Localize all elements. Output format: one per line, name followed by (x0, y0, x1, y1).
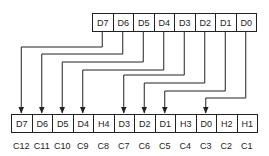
target-cell-d7: D7 (12, 115, 33, 132)
position-labels: C12C11C10C9C8C7C6C5C4C3C2C1 (11, 141, 257, 151)
target-register: D7D6D5D4H4D3D2D1H3D0H2H1 (11, 114, 258, 133)
source-cell-d4: D4 (155, 14, 176, 31)
target-cell-h3: H3 (176, 115, 197, 132)
source-cell-d3: D3 (175, 14, 196, 31)
source-cell-d6: D6 (114, 14, 135, 31)
target-cell-d5: D5 (53, 115, 74, 132)
position-label-c9: C9 (73, 141, 94, 151)
position-label-c6: C6 (134, 141, 155, 151)
position-label-c11: C11 (32, 141, 53, 151)
position-label-c1: C1 (237, 141, 258, 151)
position-label-c10: C10 (52, 141, 73, 151)
target-cell-h2: H2 (217, 115, 238, 132)
target-cell-d0: D0 (197, 115, 218, 132)
target-cell-h4: H4 (94, 115, 115, 132)
position-label-c5: C5 (155, 141, 176, 151)
source-cell-d2: D2 (196, 14, 217, 31)
target-cell-d6: D6 (33, 115, 54, 132)
wire-d2 (144, 31, 205, 113)
position-label-c4: C4 (175, 141, 196, 151)
source-cell-d7: D7 (93, 14, 114, 31)
target-cell-d2: D2 (135, 115, 156, 132)
wire-d3 (124, 31, 185, 113)
wire-d1 (165, 31, 226, 113)
source-cell-d0: D0 (237, 14, 257, 31)
target-cell-d1: D1 (156, 115, 177, 132)
position-label-c12: C12 (11, 141, 32, 151)
position-label-c8: C8 (93, 141, 114, 151)
target-cell-h1: H1 (238, 115, 258, 132)
position-label-c7: C7 (114, 141, 135, 151)
source-cell-d1: D1 (216, 14, 237, 31)
target-cell-d3: D3 (115, 115, 136, 132)
source-register: D7D6D5D4D3D2D1D0 (92, 13, 257, 32)
position-label-c2: C2 (216, 141, 237, 151)
position-label-c3: C3 (196, 141, 217, 151)
source-cell-d5: D5 (134, 14, 155, 31)
target-cell-d4: D4 (74, 115, 95, 132)
